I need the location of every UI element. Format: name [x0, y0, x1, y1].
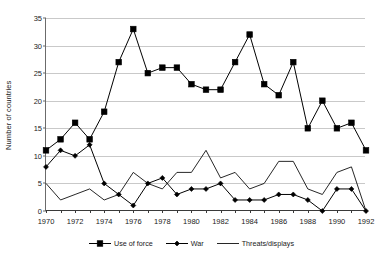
chart-page: Number of countries 05101520253035197019…	[0, 0, 383, 261]
y-tick-label: 10	[34, 151, 42, 160]
y-tick-label: 0	[38, 207, 42, 216]
series-line	[46, 150, 366, 211]
y-tick-label: 30	[34, 41, 42, 50]
legend-item[interactable]: Threats/displays	[217, 239, 294, 248]
x-tick-label: 1982	[212, 217, 229, 226]
legend-swatch-square-marker-icon	[89, 239, 111, 248]
data-point	[334, 125, 340, 131]
y-axis-title: Number of countries	[2, 60, 16, 170]
data-point	[276, 192, 281, 197]
data-point	[87, 137, 93, 143]
x-tick-label: 1976	[125, 217, 142, 226]
x-tick-label: 1980	[183, 217, 200, 226]
data-point	[320, 98, 326, 104]
plot-area: 0510152025303519701972197419761978198019…	[45, 18, 365, 211]
data-point	[189, 81, 195, 87]
data-point	[116, 59, 122, 65]
data-point	[247, 32, 253, 38]
series-line	[46, 145, 366, 211]
data-point	[262, 197, 267, 202]
data-point	[291, 192, 296, 197]
data-point	[290, 59, 296, 65]
y-tick-label: 20	[34, 96, 42, 105]
x-tick-label: 1970	[38, 217, 55, 226]
data-point	[174, 65, 180, 71]
legend-label: War	[191, 239, 204, 248]
legend-item[interactable]: War	[166, 239, 204, 248]
series-war	[44, 142, 369, 213]
series-use-of-force	[43, 26, 369, 153]
data-point	[189, 186, 194, 191]
data-point	[145, 70, 151, 76]
data-point	[101, 109, 107, 115]
series-layer	[46, 18, 366, 211]
x-tick-label: 1988	[299, 217, 316, 226]
x-tick-label: 1984	[241, 217, 258, 226]
data-point	[349, 120, 355, 126]
y-tick-label: 15	[34, 124, 42, 133]
legend-item[interactable]: Use of force	[89, 239, 153, 248]
data-point	[218, 87, 224, 93]
data-point	[247, 197, 252, 202]
data-point	[305, 125, 311, 131]
data-point	[203, 87, 209, 93]
series-threats-displays	[46, 150, 366, 211]
data-point	[72, 120, 78, 126]
y-tick-label: 35	[34, 14, 42, 23]
chart-legend: Use of forceWarThreats/displays	[0, 239, 383, 248]
data-point	[130, 26, 136, 32]
x-tick-label: 1990	[329, 217, 346, 226]
y-tick-label: 5	[38, 179, 42, 188]
data-point	[276, 92, 282, 98]
legend-swatch-diamond-marker-icon	[166, 239, 188, 248]
x-tick-label: 1978	[154, 217, 171, 226]
legend-label: Use of force	[114, 239, 153, 248]
legend-swatch-line-icon	[217, 239, 239, 248]
x-tick-label: 1986	[270, 217, 287, 226]
x-tick-label: 1974	[96, 217, 113, 226]
data-point	[58, 137, 64, 143]
data-point	[261, 81, 267, 87]
y-tick-label: 25	[34, 69, 42, 78]
data-point	[43, 148, 49, 154]
legend-label: Threats/displays	[242, 239, 294, 248]
data-point	[363, 148, 369, 154]
data-point	[160, 65, 166, 71]
data-point	[232, 59, 238, 65]
x-tick-label: 1992	[358, 217, 375, 226]
data-point	[204, 186, 209, 191]
x-tick-label: 1972	[67, 217, 84, 226]
